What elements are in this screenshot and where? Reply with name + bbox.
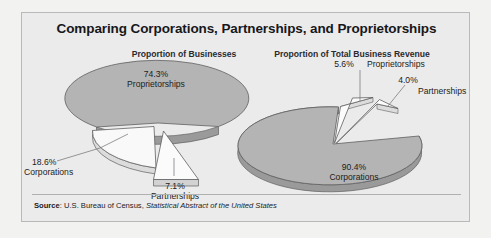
pie-left-proprietorships-name: Proprietorships [127,79,185,89]
pie-charts-canvas: 74.3% Proprietorships 18.6% Corporations… [22,13,471,223]
pie-left-proprietorships-value: 74.3% [144,69,169,79]
pie-right-partnerships-value: 4.0% [398,75,418,85]
figure-panel: Comparing Corporations, Partnerships, an… [21,12,470,222]
pie-right-corporations-name: Corporations [329,172,378,182]
source-publication: Statistical Abstract of the United State… [146,201,277,210]
pie-chart-businesses: 74.3% Proprietorships 18.6% Corporations… [24,60,249,201]
pie-right-proprietorships-value: 5.6% [334,59,354,69]
pie-left-corporations-value: 18.6% [32,157,57,167]
source-label: Source [34,201,60,210]
pie-right-corporations-value: 90.4% [342,162,367,172]
pie-left-corporations-name: Corporations [24,167,73,177]
pie-right-partnerships-leader [388,85,405,106]
pie-chart-revenue: 5.6% Proprietorships 4.0% Partnerships 9… [238,59,467,192]
pie-left-partnerships-value: 7.1% [165,181,185,191]
pie-right-proprietorships-name: Proprietorships [367,59,425,69]
pie-left-partnerships-name: Partnerships [151,191,199,201]
pie-right-partnerships-name: Partnerships [418,86,466,96]
source-note: Source: U.S. Bureau of Census, Statistic… [34,201,277,210]
source-divider [32,194,461,195]
source-publisher: U.S. Bureau of Census, [64,201,146,210]
